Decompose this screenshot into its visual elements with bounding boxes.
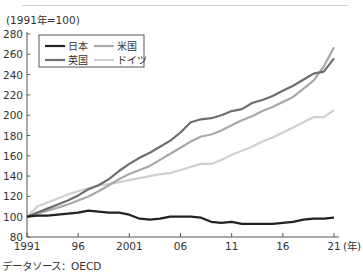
x-tick-label: 2001 [116,240,143,252]
y-tick-label: 220 [3,89,23,101]
legend-label: ドイツ [117,55,147,66]
legend-label: 日本 [68,40,88,52]
x-tick-label: 21 [327,240,340,252]
data-source: データソース：OECD [2,258,101,273]
x-tick-label: 96 [71,240,85,252]
series-line-3 [27,110,334,217]
x-unit-label: (年) [343,240,361,252]
y-tick-label: 260 [3,48,23,60]
line-chart: 8010012014016018020022024026028019919620… [0,0,363,277]
series-line-0 [27,211,334,224]
y-tick-label: 120 [3,190,23,202]
x-tick-label: 16 [276,240,290,252]
legend-label: 米国 [117,40,137,52]
legend-label: 英国 [68,54,88,66]
legend: 日本米国英国ドイツ [39,35,147,67]
y-tick-label: 200 [3,109,23,121]
y-tick-label: 100 [3,211,23,223]
y-tick-label: 280 [3,28,23,40]
x-tick-label: 11 [225,240,238,252]
plot-lines [27,47,334,224]
y-tick-label: 180 [3,130,23,142]
y-tick-label: 240 [3,69,23,81]
x-tick-label: 1991 [14,240,41,252]
y-tick-label: 160 [3,150,23,162]
y-tick-label: 140 [3,170,23,182]
x-tick-label: 06 [174,240,188,252]
